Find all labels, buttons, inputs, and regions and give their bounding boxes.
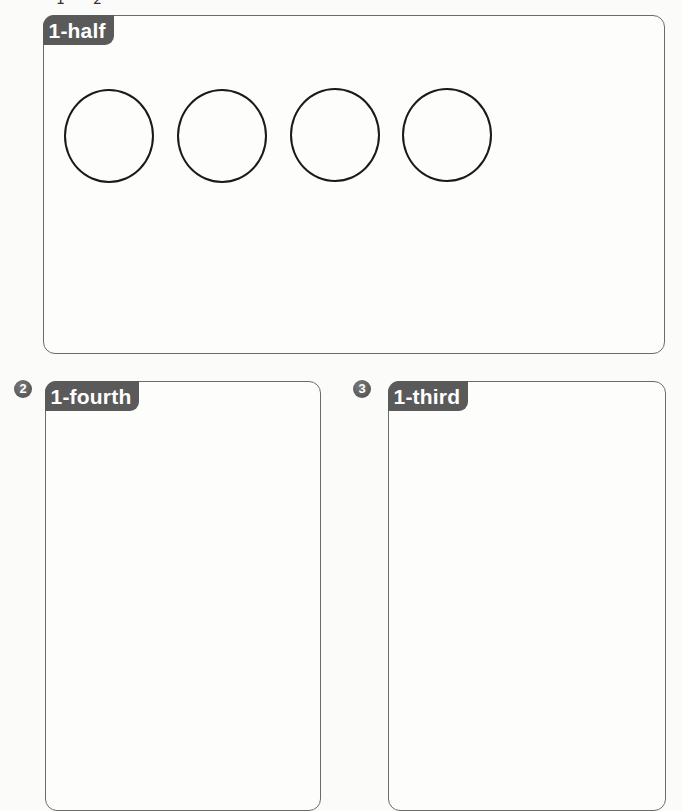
- fraction-numerator-fragment: 1: [56, 0, 65, 7]
- third-label-tab: 1-third: [388, 381, 469, 411]
- half-label-tab: 1-half: [43, 15, 114, 45]
- number-badge-2: 2: [14, 380, 32, 398]
- circle-3[interactable]: [290, 88, 380, 182]
- circle-1[interactable]: [64, 89, 154, 183]
- circle-2[interactable]: [177, 89, 267, 183]
- fraction-denominator-fragment: 2: [93, 0, 102, 7]
- fourth-panel[interactable]: 1-fourth: [45, 381, 321, 811]
- number-badge-3: 3: [353, 380, 371, 398]
- circle-4[interactable]: [402, 88, 492, 182]
- half-panel: 1-half: [43, 15, 665, 354]
- third-panel[interactable]: 1-third: [388, 381, 666, 811]
- fourth-label-tab: 1-fourth: [45, 381, 140, 411]
